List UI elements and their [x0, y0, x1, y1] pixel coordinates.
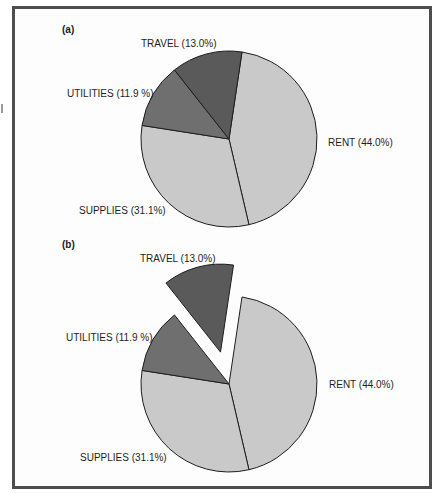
- label-utilities-b: UTILITIES (11.9 %): [66, 332, 153, 343]
- panel-label-a: (a): [62, 24, 74, 35]
- pie-chart-a: [141, 51, 317, 227]
- label-supplies-a: SUPPLIES (31.1%): [79, 205, 166, 216]
- label-rent-b: RENT (44.0%): [329, 379, 394, 390]
- label-rent-a: RENT (44.0%): [328, 137, 393, 148]
- label-utilities-a: UTILITIES (11.9 %): [67, 88, 154, 99]
- pie-chart-b: [141, 264, 317, 472]
- label-supplies-b: SUPPLIES (31.1%): [80, 452, 167, 463]
- panel-label-b: (b): [62, 239, 75, 250]
- label-travel-b: TRAVEL (13.0%): [140, 253, 216, 264]
- label-travel-a: TRAVEL (13.0%): [141, 38, 217, 49]
